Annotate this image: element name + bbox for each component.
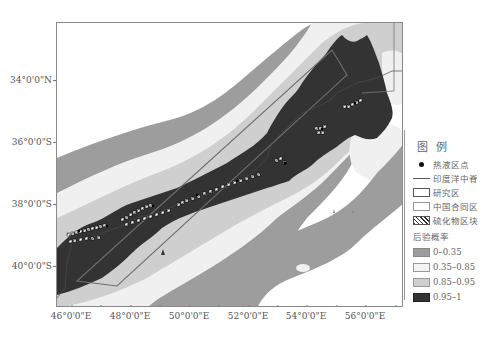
x-axis-label: 50°0'0"E	[159, 311, 219, 321]
swatch-icon	[413, 263, 430, 272]
legend-label: 0–0.35	[433, 247, 462, 257]
legend-label: 0.95–1	[433, 292, 462, 302]
legend: 图例 热液区点 印度洋中脊 研究区 中国合同区 硫化物区块 后验概率 0–0.3…	[404, 130, 489, 300]
legend-label: 热液区点	[433, 158, 469, 170]
y-axis-label: 38°0'0"S	[0, 199, 52, 209]
swatch-icon	[413, 293, 430, 302]
legend-subtitle: 后验概率	[413, 230, 449, 242]
legend-class-0-035: 0–0.35	[413, 246, 462, 258]
probability-map	[57, 23, 403, 307]
legend-item-study-area: 研究区	[413, 186, 460, 198]
box-light-icon	[413, 202, 430, 211]
legend-label: 研究区	[433, 186, 460, 198]
swatch-icon	[413, 278, 430, 287]
legend-label: 中国合同区	[433, 200, 478, 212]
legend-item-sulfide-block: 硫化物区块	[413, 214, 478, 226]
x-axis-label: 54°0'0"E	[276, 311, 336, 321]
x-axis-label: 56°0'0"E	[335, 311, 395, 321]
y-axis-label: 36°0'0"S	[0, 137, 52, 147]
legend-label: 印度洋中脊	[433, 172, 478, 184]
hatched-box-icon	[413, 216, 430, 225]
legend-class-085-095: 0.85–0.95	[413, 276, 475, 288]
legend-item-china-contract: 中国合同区	[413, 200, 478, 212]
x-axis-label: 52°0'0"E	[218, 311, 278, 321]
dot-icon	[413, 160, 430, 169]
swatch-icon	[413, 248, 430, 257]
y-axis-label: 40°0'0"S	[0, 261, 52, 271]
legend-label: 0.35–0.85	[433, 262, 475, 272]
legend-title: 图例	[417, 138, 455, 154]
legend-label: 0.85–0.95	[433, 277, 475, 287]
box-outline-icon	[413, 188, 430, 197]
legend-label: 硫化物区块	[433, 214, 478, 226]
x-axis-label: 46°0'0"E	[41, 311, 101, 321]
legend-item-ridge: 印度洋中脊	[413, 172, 478, 184]
y-axis-label: 34°0'0"N	[0, 75, 52, 85]
legend-item-hydrothermal-point: 热液区点	[413, 158, 469, 170]
legend-class-095-1: 0.95–1	[413, 291, 462, 303]
x-axis-label: 48°0'0"E	[100, 311, 160, 321]
map-frame[interactable]	[56, 22, 403, 307]
line-icon	[413, 174, 430, 183]
legend-class-035-085: 0.35–0.85	[413, 261, 475, 273]
